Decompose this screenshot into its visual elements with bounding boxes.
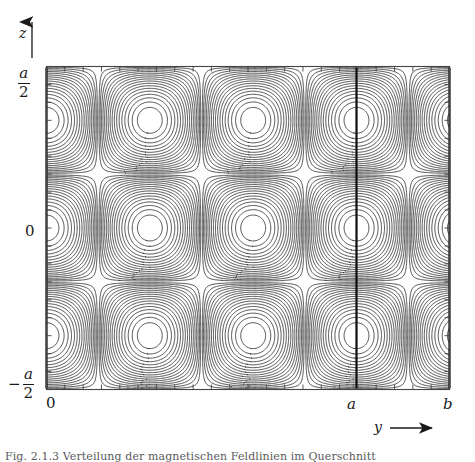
contour-path [137, 323, 162, 349]
contour-path [225, 199, 281, 257]
contour-path [112, 189, 187, 268]
contour-path [220, 301, 286, 370]
x-tick-label-a: a [347, 397, 356, 412]
y-tick-bottom-numerator: a [23, 367, 34, 383]
contour-path [232, 98, 275, 143]
contour-path [105, 73, 195, 167]
y-tick-label-mid: 0 [25, 224, 35, 239]
contour-path [105, 289, 195, 383]
contour-path [232, 313, 275, 358]
contour-path [211, 292, 294, 379]
contour-path [47, 289, 92, 383]
figure-caption: Fig. 2.1.3 Verteilung der magnetischen F… [5, 450, 465, 462]
contour-path [47, 181, 92, 275]
contour-path [47, 73, 92, 167]
x-tick-label-0: 0 [46, 396, 56, 411]
contour-path [122, 199, 178, 257]
contour-path [211, 77, 294, 164]
contour-path [122, 307, 178, 365]
contour-path [205, 178, 302, 279]
contour-path [117, 301, 183, 370]
contour-path [128, 313, 171, 358]
figure-stage: a 2 0 − a 2 0 a b z y Fig. 2.1.3 Verteil… [0, 0, 475, 462]
contour-path [241, 323, 266, 349]
contour-path [117, 193, 183, 262]
contour-plot-svg [0, 0, 475, 462]
contour-path [215, 81, 290, 160]
contour-path [47, 296, 85, 375]
contour-path [208, 73, 298, 167]
contour-path [117, 86, 183, 155]
y-tick-label-bottom: − a 2 [8, 367, 34, 401]
y-tick-label-top: a 2 [18, 66, 30, 100]
contour-path [47, 178, 95, 279]
contour-path [47, 189, 85, 268]
contour-path [108, 292, 191, 379]
contour-path [220, 193, 286, 262]
y-tick-bottom-denominator: 2 [23, 386, 35, 402]
contour-path [108, 77, 191, 164]
marker-lines [47, 68, 450, 389]
contour-path [241, 107, 266, 133]
contour-path [112, 296, 187, 375]
contour-path [225, 307, 281, 365]
contour-path [101, 178, 198, 279]
contour-path [137, 107, 162, 133]
y-tick-top-numerator: a [18, 66, 29, 82]
contour-path [47, 70, 95, 171]
contour-path [205, 285, 302, 386]
contour-path [128, 205, 171, 250]
contour-path [108, 185, 191, 272]
contour-path [241, 215, 266, 241]
contour-path [105, 181, 195, 275]
y-tick-top-denominator: 2 [18, 85, 30, 101]
contour-path [220, 86, 286, 155]
contour-path [137, 215, 162, 241]
contour-path [101, 70, 198, 171]
z-axis-label: z [19, 26, 26, 40]
contour-path [122, 91, 178, 149]
contour-path [215, 189, 290, 268]
y-axis-label: y [374, 420, 382, 434]
contour-path [232, 205, 275, 250]
contour-path [112, 81, 187, 160]
contour-path [215, 296, 290, 375]
contour-path [47, 81, 85, 160]
contour-path [128, 98, 171, 143]
minus-sign: − [8, 377, 21, 392]
contour-path [47, 285, 95, 386]
contour-lines [47, 67, 450, 388]
contour-path [208, 181, 298, 275]
contour-path [211, 185, 294, 272]
x-tick-label-b: b [443, 397, 453, 412]
contour-path [101, 285, 198, 386]
contour-path [225, 91, 281, 149]
contour-path [208, 289, 298, 383]
contour-path [205, 70, 302, 171]
